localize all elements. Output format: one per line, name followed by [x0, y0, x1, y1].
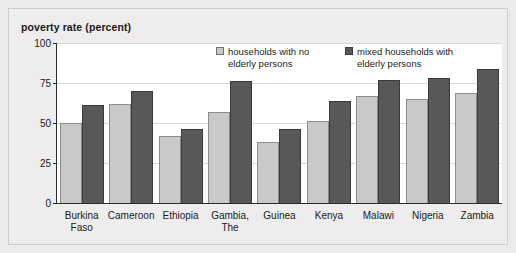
bar[interactable]	[378, 80, 400, 203]
bar[interactable]	[257, 142, 279, 203]
legend-swatch-icon	[216, 47, 224, 55]
chart-title: poverty rate (percent)	[21, 21, 131, 33]
bar[interactable]	[356, 96, 378, 203]
legend-label: mixed households with elderly persons	[357, 46, 460, 69]
bar[interactable]	[230, 81, 252, 203]
chart-legend: households with no elderly personsmixed …	[214, 44, 468, 72]
x-axis-category-label: Zambia	[447, 210, 507, 222]
bar-group: Burkina Faso	[57, 43, 106, 203]
legend-entry[interactable]: households with no elderly persons	[216, 46, 331, 69]
y-axis-tick-label: 50	[40, 118, 51, 129]
bar[interactable]	[82, 105, 104, 203]
bar[interactable]	[279, 129, 301, 203]
legend-swatch-icon	[345, 47, 353, 55]
bar[interactable]	[406, 99, 428, 203]
bar[interactable]	[455, 93, 477, 203]
chart-figure: poverty rate (percent) 0255075100 Burkin…	[8, 8, 508, 245]
bar[interactable]	[159, 136, 181, 203]
bar-group: Ethiopia	[156, 43, 205, 203]
bar[interactable]	[329, 101, 351, 203]
bar[interactable]	[208, 112, 230, 203]
bar[interactable]	[131, 91, 153, 203]
bar[interactable]	[477, 69, 499, 203]
legend-entry[interactable]: mixed households with elderly persons	[345, 46, 460, 69]
bar[interactable]	[181, 129, 203, 203]
bar[interactable]	[109, 104, 131, 203]
legend-label: households with no elderly persons	[228, 46, 331, 69]
bar[interactable]	[307, 121, 329, 203]
y-axis-tick-label: 100	[34, 38, 51, 49]
y-axis-tick-label: 75	[40, 78, 51, 89]
y-axis-tick-mark	[53, 203, 57, 204]
bar-group: Cameroon	[106, 43, 155, 203]
y-axis-tick-label: 0	[45, 198, 51, 209]
y-axis-tick-label: 25	[40, 158, 51, 169]
bar[interactable]	[428, 78, 450, 203]
bar[interactable]	[60, 123, 82, 203]
